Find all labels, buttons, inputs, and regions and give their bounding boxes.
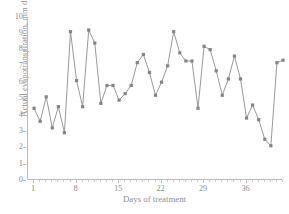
data-point-marker	[257, 118, 260, 121]
y-tick-mark	[23, 164, 26, 165]
data-point-marker	[209, 48, 212, 51]
data-point-marker	[263, 138, 266, 141]
y-tick-mark	[23, 82, 26, 83]
data-point-marker	[178, 51, 181, 54]
data-point-marker	[32, 107, 35, 110]
x-tick-minor-mark	[57, 180, 58, 182]
data-point-marker	[117, 99, 120, 102]
data-point-marker	[39, 120, 42, 123]
x-tick-mark	[161, 180, 162, 183]
chart-figure: Actual evapotranspiration, mm d-1 012345…	[0, 0, 289, 214]
data-point-marker	[99, 102, 102, 105]
data-point-marker	[136, 61, 139, 64]
data-point-marker	[190, 59, 193, 62]
x-tick-minor-mark	[155, 180, 156, 182]
x-axis-label: Days of treatment	[27, 194, 282, 204]
y-tick-mark	[23, 33, 26, 34]
y-tick-mark	[23, 66, 26, 67]
data-point-marker	[269, 144, 272, 147]
x-tick-label: 15	[114, 184, 122, 193]
x-tick-minor-mark	[233, 180, 234, 182]
x-tick-minor-mark	[282, 180, 283, 182]
y-axis-ticks: 012345678910	[0, 0, 26, 214]
data-point-marker	[202, 45, 205, 48]
data-point-marker	[160, 81, 163, 84]
data-point-marker	[69, 30, 72, 33]
x-tick-minor-mark	[173, 180, 174, 182]
x-tick-label: 8	[73, 184, 77, 193]
y-tick-mark	[23, 180, 26, 181]
x-tick-minor-mark	[136, 180, 137, 182]
y-tick-mark	[23, 99, 26, 100]
x-tick-minor-mark	[88, 180, 89, 182]
x-tick-minor-mark	[130, 180, 131, 182]
data-point-marker	[148, 71, 151, 74]
data-point-marker	[239, 77, 242, 80]
x-tick-minor-mark	[215, 180, 216, 182]
data-point-marker	[57, 105, 60, 108]
y-tick-mark	[23, 147, 26, 148]
x-tick-minor-mark	[185, 180, 186, 182]
data-point-marker	[221, 94, 224, 97]
data-point-marker	[51, 126, 54, 129]
x-tick-minor-mark	[191, 180, 192, 182]
data-point-marker	[93, 41, 96, 44]
data-point-marker	[45, 95, 48, 98]
plot-area	[27, 17, 282, 180]
x-tick-mark	[76, 180, 77, 183]
x-tick-minor-mark	[264, 180, 265, 182]
y-tick-mark	[23, 17, 26, 18]
x-tick-minor-mark	[142, 180, 143, 182]
data-point-marker	[111, 84, 114, 87]
x-tick-minor-mark	[148, 180, 149, 182]
data-point-marker	[196, 107, 199, 110]
x-tick-minor-mark	[221, 180, 222, 182]
y-tick-label: 10	[15, 13, 23, 21]
x-tick-minor-mark	[106, 180, 107, 182]
x-tick-minor-mark	[276, 180, 277, 182]
x-tick-minor-mark	[167, 180, 168, 182]
data-point-marker	[172, 30, 175, 33]
data-point-marker	[215, 69, 218, 72]
x-tick-minor-mark	[70, 180, 71, 182]
x-tick-mark	[33, 180, 34, 183]
data-point-marker	[184, 59, 187, 62]
x-tick-minor-mark	[197, 180, 198, 182]
data-point-marker	[63, 131, 66, 134]
data-point-marker	[81, 105, 84, 108]
x-tick-label: 1	[31, 184, 35, 193]
data-point-marker	[130, 84, 133, 87]
x-tick-label: 22	[156, 184, 164, 193]
data-point-marker	[275, 61, 278, 64]
data-point-marker	[227, 77, 230, 80]
x-tick-minor-mark	[45, 180, 46, 182]
data-point-marker	[75, 79, 78, 82]
y-tick-mark	[23, 50, 26, 51]
data-point-marker	[281, 59, 284, 62]
x-tick-label: 29	[199, 184, 207, 193]
data-point-marker	[105, 84, 108, 87]
data-point-marker	[142, 53, 145, 56]
x-tick-mark	[118, 180, 119, 183]
x-tick-minor-mark	[51, 180, 52, 182]
x-tick-label: 36	[241, 184, 249, 193]
x-tick-minor-mark	[63, 180, 64, 182]
y-tick-mark	[23, 115, 26, 116]
x-tick-minor-mark	[179, 180, 180, 182]
data-point-marker	[166, 64, 169, 67]
x-tick-mark	[246, 180, 247, 183]
x-tick-minor-mark	[94, 180, 95, 182]
series-polyline	[34, 30, 283, 146]
x-tick-minor-mark	[124, 180, 125, 182]
data-point-marker	[251, 103, 254, 106]
x-tick-minor-mark	[82, 180, 83, 182]
data-point-marker	[87, 28, 90, 31]
x-tick-mark	[203, 180, 204, 183]
x-tick-minor-mark	[240, 180, 241, 182]
data-point-marker	[233, 55, 236, 58]
x-tick-minor-mark	[100, 180, 101, 182]
data-point-marker	[154, 94, 157, 97]
x-tick-minor-mark	[258, 180, 259, 182]
x-tick-minor-mark	[270, 180, 271, 182]
x-tick-minor-mark	[39, 180, 40, 182]
